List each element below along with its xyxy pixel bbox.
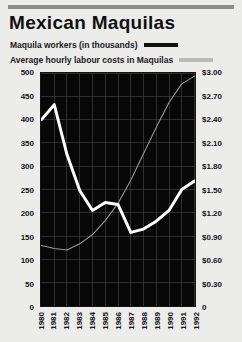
x-tick: 1990 <box>166 312 175 330</box>
y-tick-right: $2.70 <box>202 91 222 100</box>
plot-frame <box>40 72 196 307</box>
grid-lines <box>41 73 195 306</box>
y-tick-left: 500 <box>21 68 34 77</box>
y-tick-right: 0 <box>202 303 206 312</box>
legend-swatch-costs <box>179 58 213 62</box>
y-tick-left: 400 <box>21 115 34 124</box>
plot-svg <box>41 73 195 306</box>
y-axis-right: 0$0.30$0.60$0.90$1.20$1.50$1.80$2.10$2.4… <box>200 66 242 309</box>
legend-item-costs: Average hourly labour costs in Maquilas <box>10 53 234 66</box>
x-tick: 1988 <box>140 312 149 330</box>
y-tick-right: $0.90 <box>202 232 222 241</box>
x-tick: 1980 <box>37 312 46 330</box>
x-tick: 1991 <box>179 312 188 330</box>
y-tick-left: 150 <box>21 232 34 241</box>
header-rule <box>8 5 234 9</box>
chart-legend: Maquila workers (in thousands) Average h… <box>10 38 234 68</box>
x-tick: 1982 <box>62 312 71 330</box>
y-tick-left: 250 <box>21 185 34 194</box>
y-tick-right: $1.80 <box>202 162 222 171</box>
legend-item-workers: Maquila workers (in thousands) <box>10 38 234 51</box>
x-tick: 1986 <box>114 312 123 330</box>
x-tick: 1984 <box>88 312 97 330</box>
x-tick: 1987 <box>127 312 136 330</box>
y-tick-right: $1.20 <box>202 209 222 218</box>
y-tick-left: 200 <box>21 209 34 218</box>
y-tick-left: 50 <box>25 279 34 288</box>
legend-swatch-workers <box>144 43 178 47</box>
y-axis-left: 050100150200250300350400450500 <box>0 66 36 309</box>
y-tick-right: $0.60 <box>202 256 222 265</box>
y-tick-right: $2.10 <box>202 138 222 147</box>
y-tick-left: 0 <box>30 303 34 312</box>
y-tick-right: $1.50 <box>202 185 222 194</box>
legend-label-workers: Maquila workers (in thousands) <box>10 40 138 50</box>
y-tick-right: $0.30 <box>202 279 222 288</box>
x-tick: 1981 <box>49 312 58 330</box>
legend-label-costs: Average hourly labour costs in Maquilas <box>10 55 173 65</box>
y-tick-right: $3.00 <box>202 68 222 77</box>
chart-page: Mexican Maquilas Maquila workers (in tho… <box>0 0 242 342</box>
page-title: Mexican Maquilas <box>9 12 175 34</box>
x-axis: 1980198119821983198419851986198719881989… <box>40 310 196 342</box>
y-tick-right: $2.40 <box>202 115 222 124</box>
x-tick: 1985 <box>101 312 110 330</box>
x-tick: 1989 <box>153 312 162 330</box>
y-tick-left: 350 <box>21 138 34 147</box>
x-tick: 1992 <box>192 312 201 330</box>
chart-area: 050100150200250300350400450500 0$0.30$0.… <box>0 66 242 342</box>
x-tick: 1983 <box>75 312 84 330</box>
y-tick-left: 300 <box>21 162 34 171</box>
y-tick-left: 100 <box>21 256 34 265</box>
y-tick-left: 450 <box>21 91 34 100</box>
